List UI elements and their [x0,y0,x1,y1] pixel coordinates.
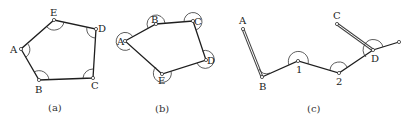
traverse-diagram-figure: A B C D E (a) A B C D E (b) [0,0,411,121]
label-b-B: B [151,14,158,25]
label-a-D: D [98,23,106,34]
label-c-A: A [238,15,247,26]
label-c-D: D [371,53,379,64]
panel-b-closed-traverse-exterior: A B C D E (b) [116,13,215,114]
label-a-B: B [35,84,42,95]
panel-a-closed-traverse-interior: A B C D E (a) [9,7,106,113]
station-a-E [52,18,55,21]
label-b-E: E [158,75,165,86]
station-c-B [260,75,263,78]
label-b-A: A [116,36,125,47]
angle-arc-a-C [83,69,93,78]
caption-b: (b) [155,103,169,114]
label-c-C: C [333,10,341,21]
label-c-B: B [259,81,266,92]
caption-c: (c) [307,103,321,114]
station-c-2 [337,71,340,74]
diagram-svg: A B C D E (a) A B C D E (b) [0,0,411,121]
panel-c-connecting-traverse: A B 1 2 C D (c) [238,10,401,114]
caption-a: (a) [48,102,62,113]
station-c-1 [296,59,299,62]
label-a-A: A [9,44,18,55]
label-c-1: 1 [296,64,302,75]
station-c-D [371,48,374,51]
station-a-A [19,47,22,50]
label-a-E: E [50,7,57,18]
label-a-C: C [91,80,99,91]
polygon-b [125,21,206,74]
label-b-D: D [207,55,215,66]
station-a-B [37,78,40,81]
angle-arc-a-A [26,43,30,57]
station-c-C [335,22,338,25]
station-c-end [397,40,400,43]
station-c-A [241,27,244,30]
label-c-2: 2 [336,76,342,87]
label-b-C: C [194,16,202,27]
